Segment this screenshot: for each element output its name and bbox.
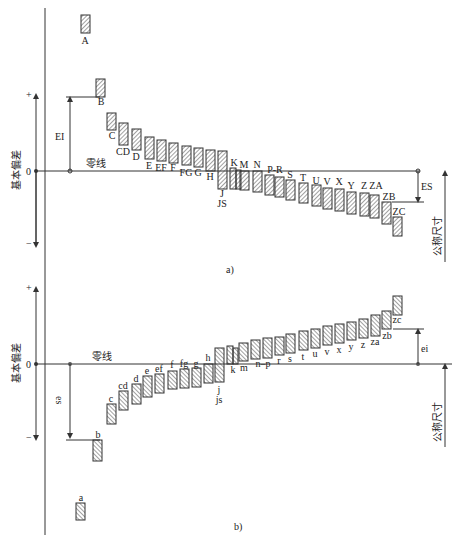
- bar-rect: [182, 146, 191, 165]
- bar-label: zc: [393, 314, 402, 325]
- deviation-bar: Y: [347, 180, 356, 214]
- bar-rect: [382, 311, 391, 329]
- fundamental-deviation-diagram: + − 0 基本偏差 零线 EI ES 公称尺寸 ABCCDDEEFFFGGHJ…: [0, 0, 457, 545]
- deviation-bar: X: [335, 176, 344, 211]
- y-axis-label-b: 基本偏差: [10, 343, 22, 383]
- bar-rect: [286, 180, 295, 200]
- nominal-size-label-b: 公称尺寸: [431, 402, 443, 442]
- bar-label: u: [313, 348, 318, 359]
- bar-rect: [265, 175, 274, 195]
- minus-sign-a: −: [26, 238, 32, 249]
- bar-label: A: [81, 35, 89, 46]
- deviation-bar: EF: [155, 140, 167, 173]
- deviation-bar: U: [312, 175, 321, 206]
- deviation-bar: u: [311, 329, 320, 359]
- deviation-bar: t: [299, 331, 308, 362]
- deviation-bar: G: [194, 148, 203, 178]
- deviation-bar: a: [76, 492, 85, 520]
- bar-rect: [312, 185, 321, 206]
- zero-mark-a: 0: [26, 166, 31, 177]
- bar-label: cd: [118, 380, 127, 391]
- bar-label: v: [325, 346, 330, 357]
- bar-rect: [155, 374, 164, 393]
- bar-label: g: [194, 358, 199, 369]
- bar-label: F: [170, 162, 176, 173]
- deviation-bar: cd: [118, 380, 128, 410]
- bar-rect: [323, 188, 332, 209]
- deviation-bar: b: [93, 429, 102, 461]
- deviation-bar: D: [132, 129, 141, 162]
- bar-rect: [253, 171, 262, 192]
- bar-rect: [347, 192, 356, 214]
- deviation-bar: JS: [217, 198, 226, 209]
- deviation-bar: ZA: [369, 180, 383, 218]
- bar-rect: [286, 334, 295, 353]
- zero-line-label-b: 零线: [92, 350, 112, 362]
- bar-rect: [132, 384, 141, 404]
- deviation-bar: T: [299, 172, 308, 203]
- deviation-bar: P-R: [265, 164, 284, 197]
- zero-line-label-a: 零线: [86, 157, 106, 169]
- deviation-bar: x: [335, 324, 344, 355]
- bar-rect: [168, 371, 177, 389]
- bar-label: m: [240, 362, 248, 373]
- deviation-bar: d: [132, 373, 141, 404]
- bar-rect: [370, 195, 379, 218]
- bar-label: B: [98, 96, 105, 107]
- ei-label: EI: [55, 131, 64, 142]
- bar-label: FG: [180, 167, 193, 178]
- bar-label: e: [145, 365, 150, 376]
- zero-mark-b: 0: [26, 359, 31, 370]
- bar-rect: [206, 150, 215, 171]
- deviation-bar: ZC: [393, 206, 406, 236]
- bar-rect: [107, 404, 116, 424]
- bar-rect: [239, 343, 248, 361]
- bar-rect: [218, 151, 227, 189]
- bar-label: z: [361, 339, 366, 350]
- bar-rect: [93, 440, 102, 461]
- deviation-bar: CD: [116, 123, 130, 157]
- bar-label: ef: [155, 363, 163, 374]
- bar-rect: [275, 337, 284, 355]
- bar-rect: [227, 346, 233, 364]
- bar-rect: [180, 369, 189, 388]
- bar-rect: [157, 140, 166, 161]
- bar-rect: [359, 319, 368, 338]
- bar-rect: [360, 193, 369, 216]
- bar-rect: [145, 137, 154, 159]
- deviation-bar: M: [240, 159, 249, 190]
- bar-label: d: [134, 373, 139, 384]
- deviation-bar: zc: [393, 296, 402, 325]
- bar-rect: [143, 376, 152, 397]
- ei-lower-label: ei: [421, 343, 428, 354]
- bar-rect: [107, 113, 116, 130]
- bar-label: c: [109, 393, 114, 404]
- plus-sign-b: +: [26, 282, 32, 293]
- es-label: ES: [421, 181, 433, 192]
- es-lower-label: es: [54, 396, 65, 404]
- bar-rect: [323, 326, 332, 345]
- bar-label: zb: [382, 330, 391, 341]
- y-axis-label-a: 基本偏差: [10, 150, 22, 190]
- deviation-bar: j: [215, 348, 224, 395]
- bar-label: V: [323, 176, 331, 187]
- diagram-b: + − 0 基本偏差 零线 es ei 公称尺寸 abccddeefffgghj…: [10, 282, 452, 533]
- deviation-bar: h: [204, 352, 213, 383]
- deviation-bar: zb: [382, 311, 392, 341]
- bar-rect: [311, 329, 320, 348]
- bar-label: D: [132, 151, 139, 162]
- bar-label: JS: [217, 198, 226, 209]
- deviation-bar: H: [206, 150, 215, 182]
- bar-rect: [81, 15, 90, 33]
- bar-label: t: [302, 351, 305, 362]
- deviation-bar: E: [145, 137, 154, 171]
- bar-label: za: [371, 336, 380, 347]
- deviation-bar: v: [323, 326, 332, 357]
- bar-rect: [251, 340, 260, 359]
- bars-b: abccddeefffgghjjskmn–prstuvxyzzazbzc: [76, 296, 402, 520]
- deviation-bar: z: [359, 319, 368, 350]
- bar-rect-secondary: [233, 348, 238, 364]
- bar-label: E: [146, 160, 152, 171]
- deviation-bar: FG: [180, 146, 193, 178]
- bar-label: G: [194, 167, 201, 178]
